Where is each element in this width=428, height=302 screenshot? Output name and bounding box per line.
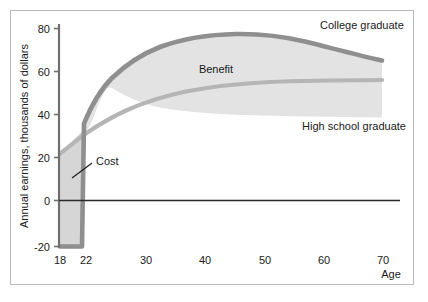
x-axis-title: Age: [381, 268, 401, 280]
y-axis-title: Annual earnings, thousands of dollars: [18, 43, 30, 228]
x-tick-label-70: 70: [377, 254, 389, 266]
y-tick-label-20: 20: [38, 152, 50, 164]
y-tick-label-80: 80: [38, 23, 50, 35]
y-tick-label-0: 0: [44, 195, 50, 207]
x-tick-label-30: 30: [140, 254, 152, 266]
cost-region-label: Cost: [96, 155, 119, 167]
x-tick-label-22: 22: [80, 254, 92, 266]
y-tick-label-minus-20: -20: [34, 241, 50, 253]
x-tick-label-50: 50: [259, 254, 271, 266]
x-tick-label-60: 60: [318, 254, 330, 266]
y-tick-label-60: 60: [38, 66, 50, 78]
benefit-region-label: Benefit: [199, 63, 233, 75]
figure-root: 80 60 40 20 0 -20 18 22 30 40 50 60 70 A…: [0, 0, 428, 302]
x-tick-label-40: 40: [199, 254, 211, 266]
high-school-graduate-label: High school graduate: [302, 120, 406, 132]
earnings-chart: 80 60 40 20 0 -20 18 22 30 40 50 60 70 A…: [0, 0, 428, 302]
x-tick-label-18: 18: [54, 254, 66, 266]
college-graduate-label: College graduate: [320, 19, 404, 31]
y-tick-label-40: 40: [38, 109, 50, 121]
